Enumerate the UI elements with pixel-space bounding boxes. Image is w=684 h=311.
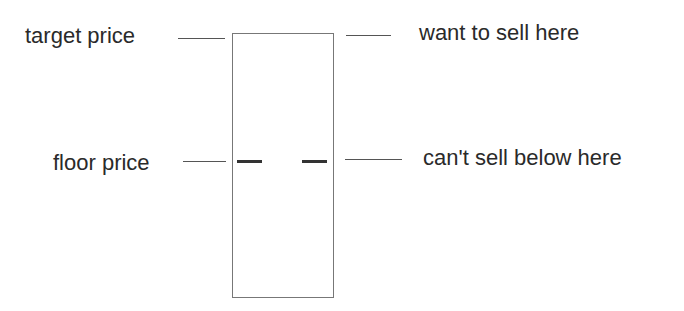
target-left-connector [178, 38, 225, 39]
floor-mark-left [237, 160, 262, 163]
floor-right-connector [345, 159, 402, 160]
want-to-sell-label: want to sell here [419, 20, 579, 46]
target-right-connector [346, 35, 391, 36]
price-range-box [232, 33, 334, 298]
floor-price-label: floor price [53, 150, 150, 176]
cant-sell-below-label: can't sell below here [423, 145, 622, 171]
floor-left-connector [183, 161, 226, 162]
target-price-label: target price [25, 23, 135, 49]
floor-mark-right [302, 160, 327, 163]
